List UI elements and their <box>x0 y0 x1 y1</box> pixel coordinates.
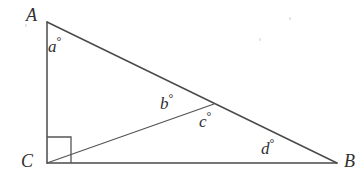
vertex-label-A: A <box>26 6 37 24</box>
degree-sign-c: ° <box>207 109 212 123</box>
scan-speck <box>25 24 27 27</box>
degree-sign-d: ° <box>270 136 275 150</box>
vertex-label-B: B <box>344 152 355 170</box>
angle-label-a: a° <box>48 35 61 55</box>
angle-symbol-a: a <box>48 37 57 56</box>
angle-label-c: c° <box>199 110 211 130</box>
angle-symbol-c: c <box>199 112 207 131</box>
degree-sign-a: ° <box>57 34 62 48</box>
degree-sign-b: ° <box>169 91 174 105</box>
angle-symbol-b: b <box>160 94 169 113</box>
scan-speck <box>289 17 291 20</box>
scan-speck <box>259 38 261 41</box>
geometry-figure: A B C a° b° c° d° <box>0 0 364 188</box>
segment-cevian-CD <box>47 104 214 163</box>
segment-hypotenuse-AB <box>47 22 337 163</box>
vertex-label-C: C <box>21 152 33 170</box>
angle-label-d: d° <box>261 137 274 157</box>
angle-label-b: b° <box>160 92 173 112</box>
angle-symbol-d: d <box>261 139 270 158</box>
figure-canvas <box>0 0 364 188</box>
